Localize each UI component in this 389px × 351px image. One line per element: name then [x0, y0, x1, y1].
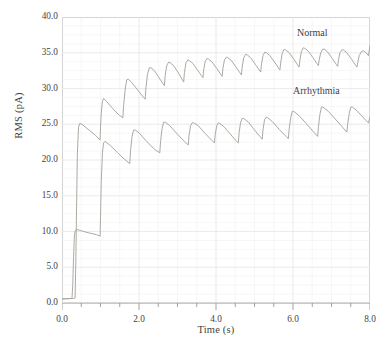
chart-figure: 0.05.010.015.020.025.030.035.040.0 RMS (…: [0, 0, 389, 351]
y-tick-label: 40.0: [24, 11, 58, 21]
x-axis-ticks: [62, 303, 370, 311]
y-axis-title: RMS (pA): [13, 56, 24, 176]
y-tick-label: 10.0: [24, 226, 58, 236]
series-label-normal: Normal: [297, 27, 328, 38]
y-tick-label: 35.0: [24, 47, 58, 57]
y-tick-label: 30.0: [24, 83, 58, 93]
series-label-arrhythmia: Arrhythmia: [293, 85, 340, 96]
x-axis-title: Time (s): [62, 324, 370, 335]
x-tick-label: 6.0: [273, 314, 313, 324]
x-tick-label: 4.0: [196, 314, 236, 324]
data-lines: [62, 17, 370, 303]
y-tick-label: 5.0: [24, 261, 58, 271]
y-tick-label: 25.0: [24, 118, 58, 128]
series-line-normal: [62, 46, 370, 299]
x-tick-label: 0.0: [42, 314, 82, 324]
series-line-arrhythmia: [62, 107, 370, 299]
y-tick-label: 0.0: [24, 297, 58, 307]
x-tick-label: 2.0: [119, 314, 159, 324]
plot-area: [62, 17, 370, 303]
y-tick-label: 15.0: [24, 190, 58, 200]
y-tick-label: 20.0: [24, 154, 58, 164]
x-axis-tick-labels: 0.02.04.06.08.0: [62, 306, 370, 322]
y-axis-tick-labels: 0.05.010.015.020.025.030.035.040.0: [20, 17, 58, 303]
x-tick-label: 8.0: [350, 314, 389, 324]
